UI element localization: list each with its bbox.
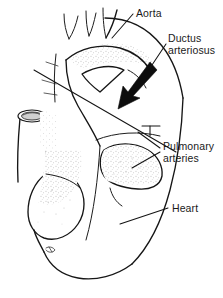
label-heart: Heart — [172, 202, 198, 214]
right-atrial-appendage — [28, 150, 90, 252]
arch-branch-vessels — [64, 8, 117, 39]
label-ductus-line1: Ductus — [168, 32, 201, 44]
label-ductus-line2: arteriosus — [168, 44, 215, 56]
label-pulmonary-line2: arteries — [163, 152, 199, 164]
anatomical-figure-heart: Aorta Ductus arteriosus Pulmonary arteri… — [0, 0, 223, 298]
pulmonary-artery-trunk — [96, 133, 168, 206]
label-aorta: Aorta — [136, 7, 162, 19]
ductus-arteriosus-arrow — [118, 62, 157, 109]
label-pulmonary-line1: Pulmonary — [163, 140, 215, 152]
